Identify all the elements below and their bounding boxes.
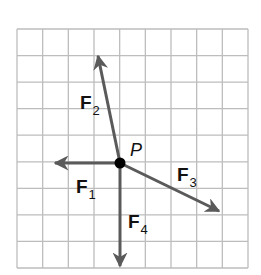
vector-label-f3-subscript: 3 xyxy=(190,175,197,190)
vector-arrow-f2 xyxy=(98,56,120,163)
vector-label-f1-subscript: 1 xyxy=(89,187,96,202)
vector-label-f4-name: F xyxy=(128,211,140,232)
vector-label-f3-name: F xyxy=(177,164,189,185)
vector-label-f2: F2 xyxy=(80,93,100,117)
vector-label-f4-subscript: 4 xyxy=(141,222,148,237)
vector-label-f1: F1 xyxy=(76,177,96,201)
vector-arrow-f3 xyxy=(120,163,219,211)
vector-label-f1-name: F xyxy=(76,176,88,197)
vector-label-f4: F4 xyxy=(128,212,148,236)
point-p-label: P xyxy=(130,141,142,159)
point-p-dot xyxy=(115,158,126,169)
vector-label-f2-name: F xyxy=(80,92,92,113)
vector-label-f3: F3 xyxy=(177,165,197,189)
vector-label-f2-subscript: 2 xyxy=(93,103,100,118)
